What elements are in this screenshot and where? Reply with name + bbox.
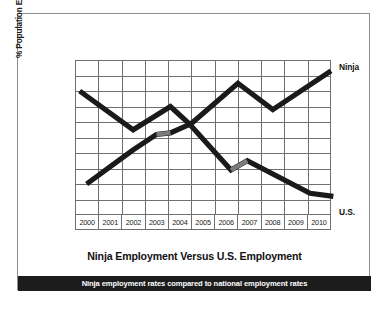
caption-bar: Ninja employment rates compared to natio…: [18, 276, 371, 291]
x-axis-tick-2000: 2000: [76, 215, 99, 229]
chart-title: Ninja Employment Versus U.S. Employment: [18, 250, 371, 262]
caption-text: Ninja employment rates compared to natio…: [82, 279, 308, 288]
x-axis-tick-row: 2000200120022003200420052006200720082009…: [75, 215, 331, 230]
x-axis-tick-2005: 2005: [192, 215, 215, 229]
series-label-us: U.S.: [339, 207, 355, 217]
series-line-us: [80, 91, 334, 196]
x-axis-tick-2006: 2006: [215, 215, 238, 229]
chart-svg: [75, 60, 331, 215]
chart-card: % Population Employed 200020012002200320…: [17, 13, 370, 290]
series-lines: [80, 71, 334, 197]
x-axis-tick-2009: 2009: [285, 215, 308, 229]
y-axis-label: % Population Employed: [15, 0, 24, 58]
y-axis-label-text: % Population Employed: [15, 0, 24, 58]
plot-area: [75, 60, 331, 215]
x-axis-tick-2010: 2010: [308, 215, 330, 229]
x-axis-tick-2008: 2008: [262, 215, 285, 229]
series-highlight-segment: [156, 133, 170, 135]
series-line-ninja: [87, 71, 331, 184]
series-label-ninja: Ninja: [339, 62, 359, 72]
x-axis-tick-2003: 2003: [146, 215, 169, 229]
x-axis-tick-2001: 2001: [99, 215, 122, 229]
x-axis-tick-2007: 2007: [238, 215, 261, 229]
series-highlight-segment: [231, 161, 247, 170]
x-axis-tick-2002: 2002: [122, 215, 145, 229]
x-axis-tick-2004: 2004: [169, 215, 192, 229]
